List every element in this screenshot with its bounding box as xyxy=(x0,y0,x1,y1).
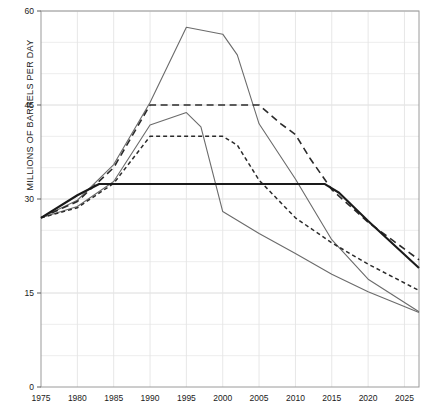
x-tick-label: 1990 xyxy=(141,393,160,403)
series-line-flat-solid-plateau-32 xyxy=(41,184,419,268)
x-tick-label: 2025 xyxy=(395,393,414,403)
series-line-high-solid-peak-1995 xyxy=(41,27,419,312)
x-tick-label: 1980 xyxy=(68,393,87,403)
y-tick-label: 45 xyxy=(25,100,35,110)
x-tick-label: 2010 xyxy=(286,393,305,403)
y-tick-label: 0 xyxy=(29,382,34,392)
x-tick-label: 1985 xyxy=(104,393,123,403)
series-line-lower-dashed-plateau-40 xyxy=(41,136,419,290)
y-tick-label: 60 xyxy=(25,6,35,16)
x-tick-label: 1995 xyxy=(177,393,196,403)
x-tick-label: 2005 xyxy=(250,393,269,403)
y-tick-label: 30 xyxy=(25,194,35,204)
y-tick-label: 15 xyxy=(25,288,35,298)
oil-production-chart: MILLIONS OF BARRELS PER DAY 015304560197… xyxy=(0,0,429,417)
x-tick-label: 2020 xyxy=(359,393,378,403)
series-line-upper-dashed-plateau-45 xyxy=(41,105,419,260)
x-tick-label: 2000 xyxy=(213,393,232,403)
chart-plot-area: 0153045601975198019851990199520002005201… xyxy=(0,0,429,417)
x-tick-label: 2015 xyxy=(322,393,341,403)
x-tick-label: 1975 xyxy=(32,393,51,403)
series-line-mid-solid-peak-1995 xyxy=(41,113,419,313)
